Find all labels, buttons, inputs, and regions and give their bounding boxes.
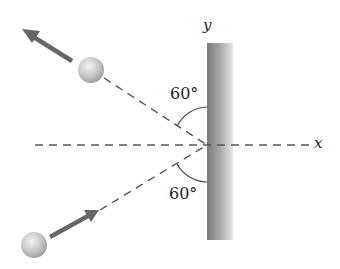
x-axis-label: x — [314, 136, 322, 151]
wall — [207, 43, 233, 240]
reflected-angle-label: 60° — [169, 186, 197, 202]
angle-arc-bottom — [177, 164, 207, 182]
diagram-canvas — [0, 0, 340, 269]
y-axis-label: y — [203, 18, 211, 33]
angle-arc-top — [177, 107, 207, 126]
reflection-diagram: y x 60° 60° — [0, 0, 340, 269]
incident-angle-label: 60° — [170, 86, 198, 102]
outgoing-arrow-icon — [22, 29, 72, 61]
outgoing-ball — [78, 57, 104, 83]
incoming-arrow-icon — [50, 210, 99, 237]
incoming-ball — [21, 232, 47, 258]
